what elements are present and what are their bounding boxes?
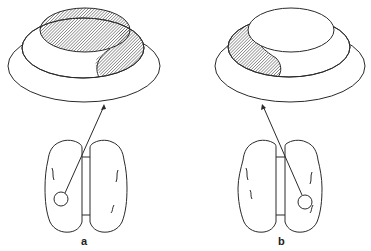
left-hemisphere-a	[45, 140, 82, 232]
brain-a	[45, 104, 127, 232]
arrow-line-b	[263, 106, 302, 195]
left-hemisphere-b	[238, 140, 276, 232]
panel-label-b: b	[278, 235, 285, 247]
right-hemisphere-a	[90, 140, 127, 232]
figure-canvas: a b	[0, 0, 371, 251]
brain-b	[238, 104, 322, 232]
arrowhead-b	[261, 104, 266, 110]
arrowhead-a	[101, 104, 106, 110]
panel-a: a	[8, 8, 160, 247]
panel-label-a: a	[81, 235, 88, 247]
layered-ellipses-b	[215, 8, 365, 102]
top-disc-a	[40, 8, 130, 52]
lesion-circle-a	[54, 192, 68, 206]
lesion-circle-b	[298, 195, 312, 209]
top-disc-b	[248, 8, 334, 52]
layered-ellipses-a	[8, 8, 160, 102]
panel-b: b	[215, 8, 365, 247]
right-hemisphere-b	[285, 140, 322, 232]
arrow-line-a	[65, 106, 104, 193]
